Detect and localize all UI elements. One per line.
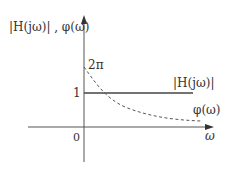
- y-axis-label: |H(jω)| , φ(ω): [9, 20, 89, 34]
- phase-curve-label: φ(ω): [193, 103, 221, 117]
- phase-start-label: 2π: [88, 58, 104, 72]
- frequency-response-diagram: |H(jω)| , φ(ω) ω 0 1 2π |H(jω)| φ(ω): [0, 0, 231, 169]
- level-one-label: 1: [73, 86, 81, 100]
- origin-label: 0: [73, 131, 80, 144]
- x-axis-label: ω: [205, 129, 215, 143]
- magnitude-curve-label: |H(jω)|: [173, 76, 214, 90]
